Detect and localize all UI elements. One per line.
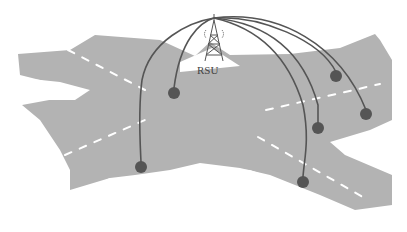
vehicle-node	[297, 176, 309, 188]
vehicle-node	[135, 161, 147, 173]
vehicle-node	[330, 70, 342, 82]
vehicle-node	[360, 108, 372, 120]
v2i-diagram	[0, 0, 407, 232]
vehicle-node	[312, 122, 324, 134]
rsu-label: RSU	[197, 64, 218, 76]
vehicle-node	[168, 87, 180, 99]
